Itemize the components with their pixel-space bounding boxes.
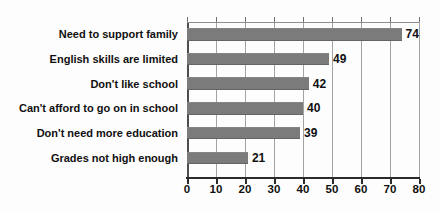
bar-value: 49: [333, 52, 346, 66]
bar-value: 40: [307, 101, 320, 115]
x-tick-label: 80: [413, 183, 426, 195]
gridline: [361, 22, 362, 177]
bar-value: 42: [313, 77, 326, 91]
bar-value: 74: [406, 27, 419, 41]
gridline: [332, 22, 333, 177]
bar-label: Don't need more education: [37, 127, 178, 139]
gridline: [274, 22, 275, 177]
x-tick-label: 60: [355, 183, 368, 195]
bar-chart-figure: Need to support familyEnglish skills are…: [0, 0, 440, 210]
bar: [187, 28, 402, 41]
x-tick-label: 10: [210, 183, 223, 195]
bar: [187, 77, 309, 90]
bar-label: Grades not high enough: [51, 152, 178, 164]
gridline: [419, 22, 420, 177]
bar-value: 21: [252, 151, 265, 165]
x-axis-line: [186, 177, 420, 179]
bar-label: Don't like school: [90, 78, 178, 90]
bar: [187, 102, 303, 115]
bar: [187, 53, 329, 66]
x-tick-label: 70: [384, 183, 397, 195]
gridline: [390, 22, 391, 177]
bar: [187, 127, 300, 140]
plot-top-border: [187, 22, 419, 23]
bar-value: 39: [304, 126, 317, 140]
bar-label: Can't afford to go on in school: [19, 102, 178, 114]
bar: [187, 152, 248, 165]
plot-area: 744942403921: [187, 22, 419, 177]
bar-label: Need to support family: [59, 28, 178, 40]
top-tick: [419, 17, 420, 22]
x-tick-label: 0: [184, 183, 190, 195]
x-tick-label: 20: [239, 183, 252, 195]
x-tick-label: 40: [297, 183, 310, 195]
x-tick-label: 30: [268, 183, 281, 195]
x-tick-label: 50: [326, 183, 339, 195]
gridline: [303, 22, 304, 177]
bar-label: English skills are limited: [50, 53, 178, 65]
